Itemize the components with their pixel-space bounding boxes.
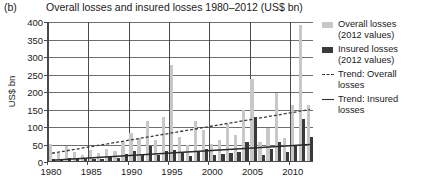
legend-label: Overall losses (2012 values) <box>338 19 421 40</box>
chart-header: (b) Overall losses and insured losses 19… <box>0 0 421 15</box>
x-tick-mark <box>208 162 209 165</box>
y-tick-300: 300 <box>1 53 43 62</box>
y-tick-350: 350 <box>1 35 43 44</box>
x-tick-1985: 1985 <box>69 166 113 177</box>
y-tick-200: 200 <box>1 88 43 97</box>
x-tick-mark <box>168 162 169 165</box>
y-tick-250: 250 <box>1 70 43 79</box>
legend-item-2: Trend: Overall losses <box>322 69 421 90</box>
x-tick-mark <box>249 162 250 165</box>
legend-item-1: Insured losses (2012 values) <box>322 44 421 65</box>
y-tick-150: 150 <box>1 105 43 114</box>
legend-dashed-line-icon <box>322 74 334 75</box>
x-tick-2010: 2010 <box>271 166 315 177</box>
y-tick-50: 50 <box>1 140 43 149</box>
chart-legend: Overall losses (2012 values)Insured loss… <box>322 19 421 119</box>
trend-lines <box>48 22 314 162</box>
legend-solid-line-icon <box>322 99 334 100</box>
panel-label: (b) <box>4 1 17 14</box>
x-tick-mark <box>289 162 290 165</box>
legend-swatch-overall-icon <box>322 22 333 28</box>
legend-label: Trend: Overall losses <box>338 69 421 90</box>
x-tick-2005: 2005 <box>231 166 275 177</box>
legend-item-0: Overall losses (2012 values) <box>322 19 421 40</box>
x-tick-mark <box>128 162 129 165</box>
legend-label: Insured losses (2012 values) <box>338 44 421 65</box>
y-tick-100: 100 <box>1 123 43 132</box>
chart-figure: (b) Overall losses and insured losses 19… <box>0 0 421 191</box>
x-tick-1980: 1980 <box>29 166 73 177</box>
trend-line-insured <box>52 145 310 161</box>
x-tick-1990: 1990 <box>110 166 154 177</box>
x-tick-mark <box>47 162 48 165</box>
chart-title: Overall losses and insured losses 1980–2… <box>46 1 303 14</box>
legend-item-3: Trend: Insured losses <box>322 94 421 115</box>
x-tick-mark <box>87 162 88 165</box>
x-tick-1995: 1995 <box>150 166 194 177</box>
plot-area <box>47 22 313 162</box>
x-tick-2000: 2000 <box>190 166 234 177</box>
legend-swatch-insured-icon <box>322 47 333 53</box>
legend-label: Trend: Insured losses <box>338 94 421 115</box>
y-tick-400: 400 <box>1 18 43 27</box>
